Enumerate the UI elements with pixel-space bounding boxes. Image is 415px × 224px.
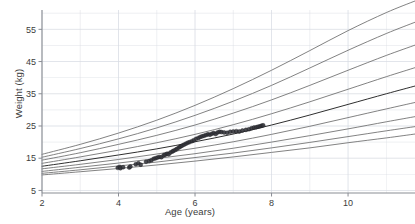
y-tick-label: 55 bbox=[26, 25, 36, 35]
growth-chart-figure: 51525354555246810 Weight (kg) Age (years… bbox=[0, 0, 415, 224]
y-tick-label: 35 bbox=[26, 89, 36, 99]
percentile-curve bbox=[42, 134, 415, 175]
scatter-point bbox=[128, 165, 132, 169]
scatter-point bbox=[261, 123, 265, 127]
percentile-curve bbox=[42, 22, 415, 157]
percentile-curves bbox=[42, 1, 415, 175]
y-tick-label: 25 bbox=[26, 121, 36, 131]
y-tick-label: 15 bbox=[26, 153, 36, 163]
y-tick-label: 45 bbox=[26, 57, 36, 67]
scatter-point bbox=[139, 163, 143, 167]
scatter-point bbox=[121, 165, 125, 169]
x-tick-label: 10 bbox=[343, 198, 353, 208]
y-axis-title: Weight (kg) bbox=[13, 54, 24, 134]
y-tick-label: 5 bbox=[31, 186, 36, 196]
x-axis-title: Age (years) bbox=[110, 206, 270, 217]
chart-canvas: 51525354555246810 bbox=[0, 0, 415, 224]
x-tick-label: 2 bbox=[39, 198, 44, 208]
percentile-curve bbox=[42, 102, 415, 168]
